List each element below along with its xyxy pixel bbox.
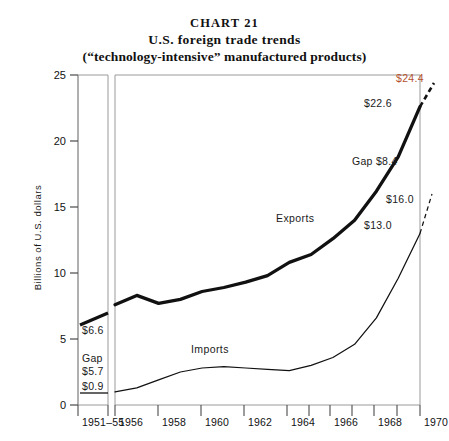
chart-page: CHART 21 U.S. foreign trade trends (“tec…	[0, 0, 449, 441]
x-tick-label-1958: 1958	[162, 416, 186, 428]
main-panel-frame	[115, 75, 420, 405]
gap-1970-label: Gap $8.4	[352, 155, 398, 167]
y-tick-label-25: 25	[54, 69, 66, 81]
x-tick-label-1951-55: 1951–55	[82, 416, 124, 428]
exports-actual-value: $22.6	[364, 97, 392, 109]
exports-series-label: Exports	[276, 212, 314, 224]
y-tick-label-5: 5	[60, 333, 66, 345]
x-tick-label-1966: 1966	[334, 416, 358, 428]
x-tick-label-1964: 1964	[291, 416, 315, 428]
inset-imports-value: $0.9	[82, 380, 104, 392]
y-axis: 25 20 15 10 5 0	[54, 69, 78, 411]
y-tick-label-10: 10	[54, 267, 66, 279]
x-tick-label-1956: 1956	[119, 416, 143, 428]
imports-series-label: Imports	[191, 343, 229, 355]
inset-gap-word: Gap	[82, 352, 103, 364]
imports-projected-value: $16.0	[386, 193, 414, 205]
imports-projection-dashed	[420, 194, 432, 233]
x-axis: 1951–55 1956 1958 1960 1962 1964 1966 19…	[78, 405, 448, 428]
chart-plot: 25 20 15 10 5 0	[0, 0, 449, 441]
imports-line	[115, 233, 420, 391]
y-tick-label-0: 0	[60, 399, 66, 411]
x-tick-label-1962: 1962	[248, 416, 272, 428]
x-tick-label-1960: 1960	[205, 416, 229, 428]
exports-projection-dashed	[420, 83, 434, 107]
y-tick-label-20: 20	[54, 135, 66, 147]
exports-line	[115, 107, 420, 305]
y-tick-label-15: 15	[54, 201, 66, 213]
x-tick-label-1970: 1970	[424, 416, 448, 428]
x-tick-label-1968: 1968	[378, 416, 402, 428]
exports-projected-value: $24.4	[396, 72, 424, 84]
inset-exports-value: $6.6	[82, 324, 104, 336]
imports-actual-value: $13.0	[364, 219, 392, 231]
inset-gap-value: $5.7	[82, 365, 104, 377]
